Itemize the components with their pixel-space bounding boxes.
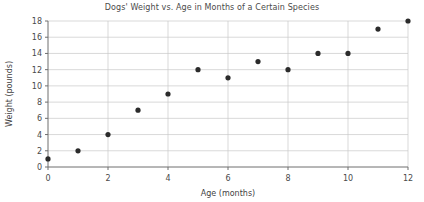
plot-area: 024681012141618 024681012 0, 11, 22, 43,… [0, 0, 424, 202]
scatter-chart: Dogs' Weight vs. Age in Months of a Cert… [0, 0, 424, 202]
y-tick-label-16: 16 [32, 33, 42, 42]
x-tick-label-10: 10 [343, 174, 353, 183]
data-point: 3, 7 [135, 108, 140, 113]
data-point: 4, 9 [165, 91, 170, 96]
data-point: 7, 13 [255, 59, 260, 64]
x-tick-label-6: 6 [225, 174, 230, 183]
y-tick-label-18: 18 [32, 17, 42, 26]
data-point: 6, 11 [225, 75, 230, 80]
x-tick-label-2: 2 [105, 174, 110, 183]
data-point: 0, 1 [45, 156, 50, 161]
x-tick-label-8: 8 [285, 174, 290, 183]
y-tick-label-12: 12 [32, 66, 42, 75]
y-tick-label-10: 10 [32, 82, 42, 91]
x-axis-label: Age (months) [201, 189, 255, 198]
data-point: 9, 14 [315, 51, 320, 56]
data-point: 2, 4 [105, 132, 110, 137]
y-axis-tick-labels: 024681012141618 [32, 17, 42, 172]
data-point: 11, 17 [375, 27, 380, 32]
x-axis-tick-labels: 024681012 [45, 174, 413, 183]
y-tick-label-8: 8 [37, 98, 42, 107]
y-tick-label-0: 0 [37, 163, 42, 172]
y-tick-label-14: 14 [32, 49, 42, 58]
data-point: 10, 14 [345, 51, 350, 56]
y-tick-label-4: 4 [37, 131, 42, 140]
x-tick-label-12: 12 [403, 174, 413, 183]
data-point: 8, 12 [285, 67, 290, 72]
data-point: 12, 18 [405, 18, 410, 23]
vertical-gridlines [108, 21, 408, 167]
x-tick-label-4: 4 [165, 174, 170, 183]
y-tick-label-6: 6 [37, 114, 42, 123]
y-tick-label-2: 2 [37, 147, 42, 156]
y-axis-label: Weight (pounds) [5, 61, 14, 127]
x-tick-label-0: 0 [45, 174, 50, 183]
data-point: 5, 12 [195, 67, 200, 72]
data-point: 1, 2 [75, 148, 80, 153]
